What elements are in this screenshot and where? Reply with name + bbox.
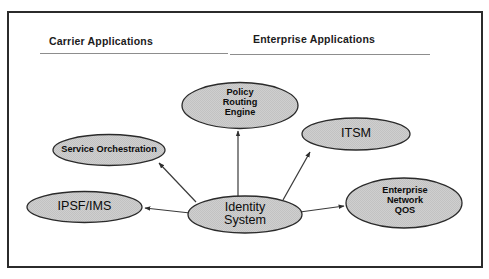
diagram-figure: Carrier Applications Enterprise Applicat… <box>0 0 489 279</box>
node-shape-enterprise-network-qos[interactable] <box>346 178 462 228</box>
connector-identity-to-service-orchestration <box>159 163 196 202</box>
node-shape-service-orchestration[interactable] <box>53 135 165 166</box>
node-shape-identity-system[interactable] <box>188 196 302 233</box>
node-shape-ipsf-ims[interactable] <box>27 192 142 223</box>
heading-rule-enterprise <box>230 54 430 55</box>
heading-carrier-applications: Carrier Applications <box>49 35 153 47</box>
connector-identity-to-ipsf-ims <box>145 208 190 213</box>
node-shape-group <box>27 83 462 234</box>
connector-identity-to-enterprise-network-qos <box>300 206 344 212</box>
heading-enterprise-applications: Enterprise Applications <box>253 33 375 45</box>
connector-identity-to-itsm <box>283 152 310 200</box>
node-shape-itsm[interactable] <box>302 118 410 150</box>
node-shape-policy-routing-engine[interactable] <box>182 83 298 129</box>
heading-rule-carrier <box>40 53 228 54</box>
